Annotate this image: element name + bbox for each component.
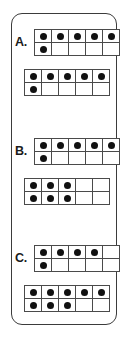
counter-dot-icon [74, 142, 81, 149]
frame-cell [69, 259, 86, 271]
frame-cell [86, 152, 103, 164]
counter-dot-icon [30, 195, 37, 202]
counter-dot-icon [40, 142, 47, 149]
counter-dot-icon [57, 249, 64, 256]
frame-cell [59, 83, 76, 95]
frame-row [25, 286, 109, 299]
counter-dot-icon [64, 302, 71, 309]
frame-row [35, 152, 119, 164]
frame-cell [93, 286, 109, 298]
counter-dot-icon [30, 86, 37, 93]
empty-cell-slot [74, 155, 81, 162]
frame-row [35, 259, 119, 271]
frame-cell [86, 30, 103, 42]
counter-dot-icon [30, 73, 37, 80]
empty-cell-slot [74, 262, 81, 269]
frame-cell [52, 139, 69, 151]
counter-dot-icon [64, 289, 71, 296]
counter-dot-icon [81, 289, 88, 296]
frame-cell [86, 139, 103, 151]
frame-cell [93, 299, 109, 311]
frame-cell [42, 83, 59, 95]
frame-cell [93, 192, 109, 204]
frame-cell [52, 43, 69, 55]
counter-dot-icon [40, 33, 47, 40]
counter-dot-icon [57, 142, 64, 149]
counter-dot-icon [47, 195, 54, 202]
frame-cell [25, 192, 42, 204]
frame-cell [69, 246, 86, 258]
frame-cell [52, 259, 69, 271]
empty-cell-slot [47, 86, 54, 93]
question-label: C. [15, 245, 33, 271]
frame-cell [42, 70, 59, 82]
frame-cell [59, 70, 76, 82]
frame-cell [76, 286, 93, 298]
counter-dot-icon [64, 195, 71, 202]
counter-dot-icon [74, 249, 81, 256]
frame-cell [103, 259, 119, 271]
counter-dot-icon [108, 33, 115, 40]
frame-cell [103, 246, 119, 258]
counter-dot-icon [57, 33, 64, 40]
frame-cell [25, 286, 42, 298]
frame-cell [25, 83, 42, 95]
frame-cell [76, 83, 93, 95]
frame-row [25, 299, 109, 311]
frame-row [25, 192, 109, 204]
frame-cell [69, 152, 86, 164]
frame-cell [35, 43, 52, 55]
counter-dot-icon [98, 289, 105, 296]
counter-dot-icon [98, 73, 105, 80]
ten-frame-a-2 [24, 69, 110, 96]
frame-cell [76, 299, 93, 311]
frame-cell [76, 179, 93, 191]
empty-cell-slot [91, 155, 98, 162]
counter-dot-icon [91, 33, 98, 40]
counter-dot-icon [91, 249, 98, 256]
frame-cell [103, 152, 119, 164]
frame-row [25, 179, 109, 192]
empty-cell-slot [81, 86, 88, 93]
empty-cell-slot [81, 195, 88, 202]
ten-frame-b-1 [34, 138, 120, 165]
empty-cell-slot [98, 195, 105, 202]
frame-cell [103, 30, 119, 42]
frame-cell [86, 43, 103, 55]
empty-cell-slot [74, 46, 81, 53]
empty-cell-slot [91, 46, 98, 53]
empty-cell-slot [81, 302, 88, 309]
counter-dot-icon [47, 182, 54, 189]
frame-cell [69, 43, 86, 55]
counter-dot-icon [30, 182, 37, 189]
empty-cell-slot [108, 249, 115, 256]
ten-frame-c-2 [24, 285, 110, 312]
frame-cell [59, 179, 76, 191]
frame-cell [52, 30, 69, 42]
ten-frame-b-2 [24, 178, 110, 205]
empty-cell-slot [98, 86, 105, 93]
frame-cell [59, 192, 76, 204]
frame-cell [42, 192, 59, 204]
counter-dot-icon [74, 33, 81, 40]
empty-cell-slot [108, 46, 115, 53]
frame-cell [35, 246, 52, 258]
empty-cell-slot [108, 262, 115, 269]
frame-row [35, 30, 119, 43]
frame-cell [76, 192, 93, 204]
frame-cell [35, 139, 52, 151]
empty-cell-slot [57, 46, 64, 53]
ten-frame-c-1 [34, 245, 120, 272]
frame-cell [103, 139, 119, 151]
empty-cell-slot [108, 155, 115, 162]
counter-dot-icon [30, 302, 37, 309]
frame-row [35, 43, 119, 55]
frame-cell [35, 259, 52, 271]
frame-row [25, 83, 109, 95]
question-label: B. [15, 138, 33, 164]
empty-cell-slot [64, 86, 71, 93]
frame-cell [35, 30, 52, 42]
frame-cell [103, 43, 119, 55]
frame-cell [69, 30, 86, 42]
frame-cell [42, 299, 59, 311]
